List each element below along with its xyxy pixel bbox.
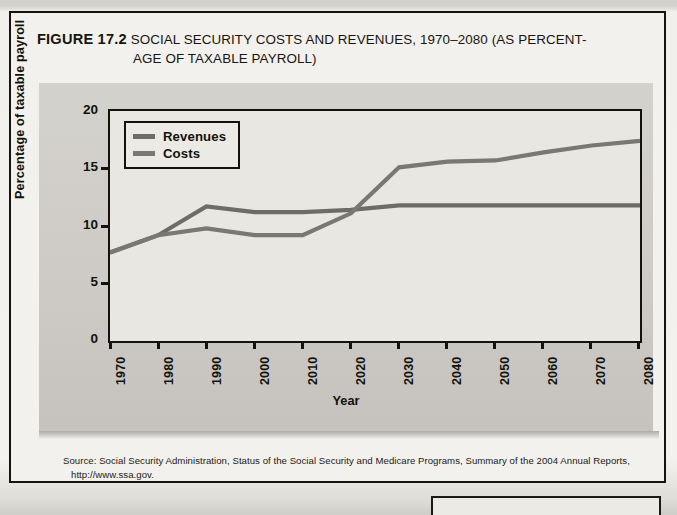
y-tick-label-15: 15: [72, 159, 98, 174]
legend-swatch-costs-icon: [133, 151, 155, 156]
x-tick-mark-2020: [349, 341, 352, 349]
x-tick-label-2070: 2070: [594, 357, 608, 385]
figure-container: FIGURE 17.2 SOCIAL SECURITY COSTS AND RE…: [9, 11, 666, 483]
x-tick-mark-2080: [637, 341, 640, 349]
x-tick-label-2080: 2080: [642, 357, 656, 385]
x-tick-label-2010: 2010: [306, 357, 320, 385]
plot-area: Revenues Costs: [108, 109, 642, 343]
legend-item-revenues: Revenues: [133, 128, 226, 145]
figure-title-line-2: AGE OF TAXABLE PAYROLL): [37, 49, 647, 68]
y-tick-label-5: 5: [72, 274, 98, 289]
y-axis-title: Percentage of taxable payroll: [13, 20, 27, 199]
legend-label-costs: Costs: [163, 146, 200, 161]
x-tick-mark-2030: [397, 341, 400, 349]
legend-item-costs: Costs: [133, 145, 226, 162]
y-tick-mark-10: [101, 225, 108, 228]
x-tick-label-2020: 2020: [354, 357, 368, 385]
x-tick-mark-1970: [109, 341, 112, 349]
y-tick-mark-5: [101, 282, 108, 285]
x-tick-label-2030: 2030: [402, 357, 416, 385]
x-tick-label-2000: 2000: [258, 357, 272, 385]
figure-number: FIGURE 17.2: [37, 31, 127, 47]
x-tick-label-1990: 1990: [210, 357, 224, 385]
y-tick-label-10: 10: [72, 217, 98, 232]
y-tick-label-20: 20: [72, 102, 98, 117]
x-tick-mark-2010: [301, 341, 304, 349]
figure-title-text-1: SOCIAL SECURITY COSTS AND REVENUES, 1970…: [131, 32, 587, 47]
chart-legend: Revenues Costs: [124, 121, 240, 169]
x-tick-mark-2040: [445, 341, 448, 349]
figure-title: FIGURE 17.2 SOCIAL SECURITY COSTS AND RE…: [37, 30, 647, 68]
x-tick-mark-1980: [157, 341, 160, 349]
source-line-1: Source: Social Security Administration, …: [63, 455, 630, 466]
chart-panel: Percentage of taxable payroll 20 15 10 5…: [39, 83, 653, 431]
source-line-2: http://www.ssa.gov.: [63, 469, 154, 480]
legend-label-revenues: Revenues: [163, 129, 226, 144]
x-tick-mark-1990: [205, 341, 208, 349]
x-tick-mark-2060: [541, 341, 544, 349]
y-tick-mark-15: [101, 167, 108, 170]
x-tick-label-1970: 1970: [114, 357, 128, 385]
x-tick-mark-2050: [493, 341, 496, 349]
bottom-partial-box: [431, 496, 661, 515]
x-tick-label-1980: 1980: [162, 357, 176, 385]
figure-title-line-1: FIGURE 17.2 SOCIAL SECURITY COSTS AND RE…: [37, 30, 647, 49]
x-tick-label-2050: 2050: [498, 357, 512, 385]
x-tick-label-2040: 2040: [450, 357, 464, 385]
x-tick-mark-2070: [589, 341, 592, 349]
y-tick-label-0: 0: [72, 331, 98, 346]
source-note: Source: Social Security Administration, …: [63, 454, 653, 482]
x-tick-label-2060: 2060: [546, 357, 560, 385]
x-tick-mark-2000: [253, 341, 256, 349]
x-axis-title: Year: [39, 393, 653, 408]
legend-swatch-revenues-icon: [133, 134, 155, 139]
